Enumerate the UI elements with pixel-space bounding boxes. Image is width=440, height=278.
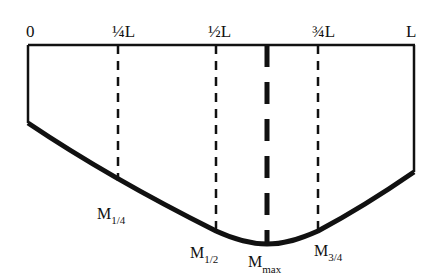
label-half: ½L xyxy=(208,22,231,41)
label-end: L xyxy=(406,22,416,41)
label-quarter: ¼L xyxy=(112,22,135,41)
moment-curve xyxy=(28,123,414,244)
moment-diagram: 0 ¼L ½L ¾L L M1/4 M1/2 Mmax M3/4 xyxy=(0,0,440,278)
label-m-max: Mmax xyxy=(248,253,282,275)
label-m-half: M1/2 xyxy=(190,244,218,265)
label-three-quarter: ¾L xyxy=(312,22,335,41)
label-m-quarter: M1/4 xyxy=(97,205,126,226)
label-m-three-quarter: M3/4 xyxy=(314,242,343,263)
label-start: 0 xyxy=(26,22,35,41)
